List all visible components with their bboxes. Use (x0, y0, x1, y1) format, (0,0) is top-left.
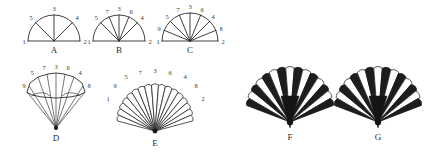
panel-e-label-2: 2 (201, 95, 204, 102)
panel-e-hub (153, 129, 158, 134)
panel-d-label-6: 6 (66, 64, 70, 71)
panel-a-ray-4 (54, 23, 72, 41)
panel-d-label-3: 3 (54, 63, 57, 70)
panel-b-label-2: 2 (148, 38, 151, 45)
panel-b-label-1: 1 (87, 38, 90, 45)
panel-c-label-9: 9 (157, 25, 160, 32)
panel-b-ray-7 (109, 17, 119, 41)
panel-e-blades (117, 84, 193, 131)
panel-e: 3 7 6 5 4 9 8 1 2 E (106, 67, 204, 148)
panel-b: 3 7 6 5 4 1 2 B (87, 5, 151, 55)
panel-b-label-4: 4 (140, 14, 144, 21)
panel-b-ray-4 (119, 23, 137, 41)
panel-d-label-8: 8 (87, 82, 90, 89)
panel-a: 3 5 4 1 2 A (22, 5, 86, 55)
panel-c-label-7: 7 (176, 6, 180, 13)
panel-a-caption: A (51, 45, 58, 55)
panel-e-label-3: 3 (153, 67, 156, 74)
panel-b-label-3: 3 (117, 5, 120, 12)
diagram-canvas: 3 5 4 1 2 A 3 7 6 5 4 1 2 B 3 7 6 (0, 0, 432, 157)
panel-g-blades (334, 67, 421, 129)
panel-d-ray-7 (47, 74, 56, 128)
panel-f: F (246, 67, 333, 143)
panel-e-label-6: 6 (168, 69, 172, 76)
panel-a-label-2: 2 (83, 38, 86, 45)
panel-d-label-4: 4 (78, 69, 82, 76)
panel-c-label-8: 8 (219, 25, 222, 32)
panel-e-label-9: 9 (113, 82, 116, 89)
panel-e-caption: E (152, 138, 158, 148)
panel-a-ray-5 (36, 23, 54, 41)
panel-e-label-4: 4 (183, 73, 187, 80)
panel-a-label-5: 5 (29, 14, 32, 21)
panel-b-label-6: 6 (129, 8, 133, 15)
panel-g-caption: G (375, 132, 382, 142)
panel-d-ray-6 (56, 74, 65, 128)
panel-b-ray-5 (101, 23, 119, 41)
panel-d-label-5: 5 (30, 69, 33, 76)
panel-e-label-1: 1 (106, 95, 109, 102)
panel-c-ray-4 (190, 21, 210, 41)
panel-d-label-9: 9 (22, 82, 25, 89)
panel-a-label-4: 4 (75, 14, 79, 21)
panel-b-caption: B (116, 45, 122, 55)
panel-e-label-8: 8 (194, 82, 197, 89)
panel-c-caption: C (187, 45, 193, 55)
panel-d-ray-8 (56, 86, 83, 128)
panel-c-label-1: 1 (156, 38, 159, 45)
fan-sequence-figure: 3 5 4 1 2 A 3 7 6 5 4 1 2 B 3 7 6 (0, 0, 432, 157)
panel-a-label-1: 1 (22, 38, 25, 45)
panel-c-label-6: 6 (200, 6, 204, 13)
panel-c-label-4: 4 (211, 13, 215, 20)
panel-f-blades (246, 67, 333, 129)
panel-b-ray-6 (119, 17, 129, 41)
panel-d-caption: D (53, 133, 60, 143)
panel-d-label-7: 7 (42, 64, 46, 71)
panel-d-ray-5 (38, 77, 56, 128)
panel-a-label-3: 3 (52, 5, 55, 12)
panel-c: 3 7 6 5 4 9 8 1 2 C (156, 3, 224, 55)
panel-c-label-3: 3 (188, 3, 191, 10)
panel-e-label-7: 7 (138, 69, 142, 76)
panel-d-ray-9 (29, 86, 56, 128)
panel-d-ray-4 (56, 77, 74, 128)
panel-c-label-5: 5 (165, 13, 168, 20)
panel-c-label-2: 2 (221, 38, 224, 45)
panel-g: G (334, 67, 421, 143)
panel-f-caption: F (287, 132, 292, 142)
panel-c-ray-5 (170, 21, 190, 41)
panel-e-label-5: 5 (124, 73, 127, 80)
panel-b-label-5: 5 (94, 14, 97, 21)
panel-d-hub (54, 126, 58, 130)
panel-d: 3 7 6 5 4 9 8 D (22, 63, 90, 143)
panel-b-label-7: 7 (105, 8, 109, 15)
